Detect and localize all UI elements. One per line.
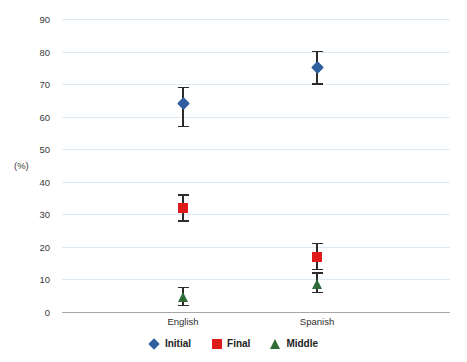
- triangle-icon: [270, 338, 281, 349]
- gridline: [62, 149, 450, 150]
- error-bar-cap-upper: [312, 243, 323, 245]
- y-axis-tick-label: 80: [0, 46, 50, 57]
- gridline: [62, 247, 450, 248]
- error-bar-cap-upper: [178, 287, 189, 289]
- y-axis-tick-label: 20: [0, 241, 50, 252]
- data-point-marker-final[interactable]: [178, 203, 188, 213]
- x-axis-tick-label: Spanish: [300, 316, 334, 327]
- error-bar-cap-lower: [178, 220, 189, 222]
- chart-container: (%) 0102030405060708090 EnglishSpanish I…: [0, 0, 467, 362]
- data-point-marker-middle[interactable]: [178, 292, 188, 302]
- diamond-icon: [149, 338, 160, 349]
- error-bar-cap-lower: [312, 83, 323, 85]
- legend-item-initial[interactable]: Initial: [149, 338, 191, 349]
- legend-label: Final: [227, 338, 250, 349]
- gridline: [62, 214, 450, 215]
- data-point-marker-initial[interactable]: [311, 61, 324, 74]
- data-point-marker-middle[interactable]: [312, 279, 322, 289]
- y-axis-tick-label: 10: [0, 274, 50, 285]
- y-axis-tick-label: 50: [0, 144, 50, 155]
- data-point-marker-final[interactable]: [312, 252, 322, 262]
- error-bar-cap-upper: [178, 87, 189, 89]
- error-bar-cap-upper: [312, 51, 323, 53]
- y-axis-tick-label: 0: [0, 307, 50, 318]
- gridline: [62, 279, 450, 280]
- gridline: [62, 312, 450, 313]
- y-axis-tick-label: 30: [0, 209, 50, 220]
- plot-area: [62, 19, 450, 312]
- gridline: [62, 19, 450, 20]
- gridline: [62, 117, 450, 118]
- legend-label: Middle: [286, 338, 318, 349]
- y-axis-tick-label: 70: [0, 79, 50, 90]
- data-point-marker-initial[interactable]: [177, 97, 190, 110]
- legend-item-final[interactable]: Final: [211, 338, 250, 349]
- y-axis-tick-label: 40: [0, 176, 50, 187]
- error-bar-cap-lower: [312, 292, 323, 294]
- x-axis-tick-label: English: [167, 316, 198, 327]
- error-bar-cap-lower: [178, 305, 189, 307]
- y-axis-tick-labels: 0102030405060708090: [0, 0, 58, 362]
- error-bar-cap-upper: [312, 272, 323, 274]
- square-icon: [211, 338, 222, 349]
- gridline: [62, 52, 450, 53]
- error-bar-cap-lower: [312, 269, 323, 271]
- chart-legend: InitialFinalMiddle: [0, 338, 467, 349]
- y-axis-tick-label: 60: [0, 111, 50, 122]
- y-axis-tick-label: 90: [0, 14, 50, 25]
- error-bar-cap-upper: [178, 194, 189, 196]
- legend-item-middle[interactable]: Middle: [270, 338, 318, 349]
- error-bar-cap-lower: [178, 126, 189, 128]
- gridline: [62, 84, 450, 85]
- gridline: [62, 182, 450, 183]
- legend-label: Initial: [165, 338, 191, 349]
